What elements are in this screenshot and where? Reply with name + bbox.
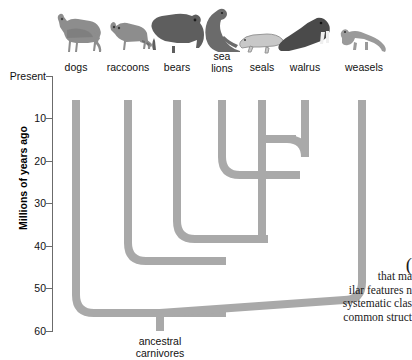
axis-title: Millions of years ago bbox=[17, 103, 29, 253]
tip-label-raccoons: raccoons bbox=[107, 62, 150, 74]
axis-label-40: 40 bbox=[0, 240, 46, 252]
axis-tick-40 bbox=[46, 246, 52, 247]
axis-tick-50 bbox=[46, 288, 52, 289]
body-text-line-4: common struct bbox=[294, 311, 412, 325]
axis-tick-10 bbox=[46, 118, 52, 119]
tip-label-dogs: dogs bbox=[65, 62, 88, 74]
axis-label-20: 20 bbox=[0, 155, 46, 167]
axis-label-60: 60 bbox=[0, 325, 46, 337]
axis-label-present: Present bbox=[0, 70, 46, 82]
body-text-line-2: ilar features n bbox=[294, 284, 412, 298]
body-text-line-3: systematic clas bbox=[294, 297, 412, 311]
tip-label-bears: bears bbox=[164, 62, 190, 74]
body-text-column: ( that ma ilar features n systematic cla… bbox=[294, 258, 412, 324]
axis-cap-bottom bbox=[46, 331, 53, 332]
body-text-line-1: that ma bbox=[294, 270, 412, 284]
branch-walrus bbox=[287, 100, 305, 157]
tip-label-seals: seals bbox=[250, 62, 275, 74]
axis-label-10: 10 bbox=[0, 112, 46, 124]
tip-label-weasels: weasels bbox=[345, 62, 383, 74]
phylogenetic-tree-figure: Millions of years ago Present 10 20 30 4… bbox=[0, 0, 412, 360]
tip-label-sea-lions: sea lions bbox=[211, 51, 233, 74]
axis-label-30: 30 bbox=[0, 197, 46, 209]
axis-label-50: 50 bbox=[0, 282, 46, 294]
root-label: ancestral carnivores bbox=[136, 336, 184, 359]
axis-cap-top bbox=[46, 76, 53, 77]
axis-tick-20 bbox=[46, 161, 52, 162]
branch-dogs bbox=[76, 100, 226, 313]
tip-label-walrus: walrus bbox=[290, 62, 320, 74]
axis-tick-30 bbox=[46, 203, 52, 204]
axis-line bbox=[52, 76, 53, 332]
